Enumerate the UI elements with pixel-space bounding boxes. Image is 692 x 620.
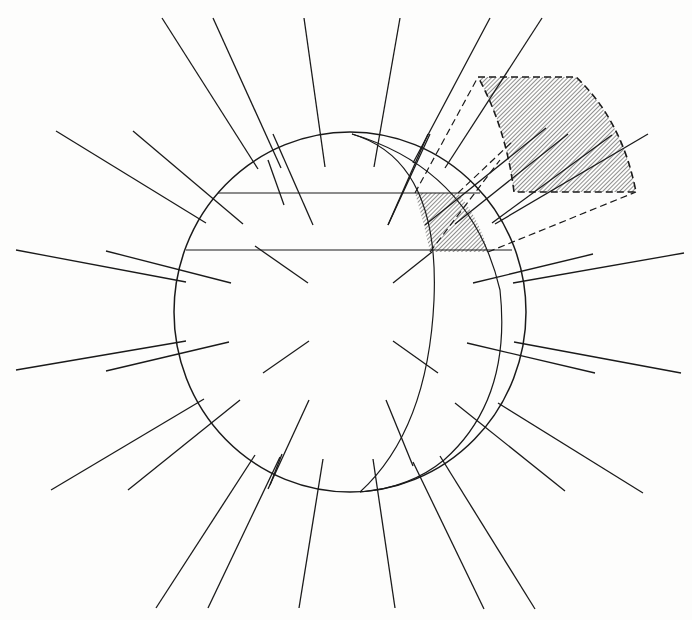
field-line — [16, 341, 186, 370]
field-line — [455, 403, 565, 491]
field-line — [263, 341, 309, 373]
field-line — [373, 459, 395, 608]
sphere-field-diagram — [0, 0, 692, 620]
field-line — [304, 18, 325, 167]
field-line — [56, 131, 206, 223]
field-line — [128, 400, 240, 490]
field-line — [393, 341, 438, 373]
field-line — [156, 455, 255, 608]
field-line — [514, 342, 681, 373]
field-line — [374, 18, 400, 167]
field-line — [162, 18, 258, 169]
field-line — [106, 342, 229, 371]
field-line — [213, 18, 281, 168]
field-line — [467, 343, 595, 373]
field-line — [440, 456, 535, 609]
field-line — [208, 457, 280, 608]
field-line — [270, 454, 282, 485]
inner-meridian-arc — [352, 134, 434, 492]
field-line — [255, 246, 308, 283]
small-hatched-region — [415, 193, 488, 252]
field-line — [51, 399, 204, 490]
field-line — [498, 403, 643, 493]
projection-line — [488, 192, 636, 252]
diagram-canvas — [0, 0, 692, 620]
field-line — [268, 160, 284, 205]
field-line — [16, 250, 186, 282]
projection-line — [458, 140, 514, 193]
field-line — [413, 462, 484, 609]
projection-line — [415, 77, 478, 193]
hatched-wedges — [415, 77, 636, 252]
field-line — [133, 131, 243, 224]
field-line — [273, 134, 313, 225]
field-line — [393, 252, 432, 283]
field-line — [513, 253, 684, 283]
field-line — [299, 459, 323, 608]
